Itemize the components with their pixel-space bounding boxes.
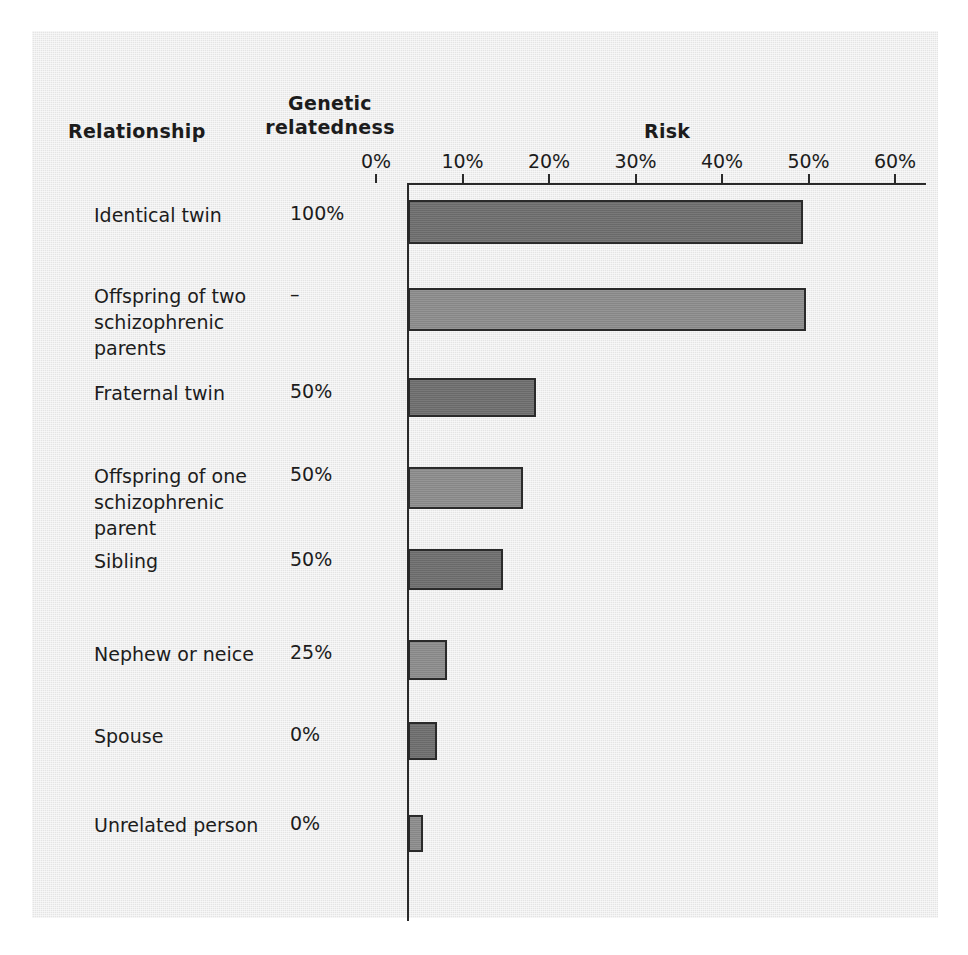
row-label-line1: Sibling xyxy=(94,548,284,574)
x-axis-tick-label: 60% xyxy=(874,150,916,172)
column-header-relationship: Relationship xyxy=(68,120,206,142)
x-axis-tick-label: 40% xyxy=(701,150,743,172)
row-label-line2: schizophrenic parents xyxy=(94,309,284,361)
bar-risk xyxy=(408,288,806,331)
row-label-relationship: Sibling xyxy=(94,548,284,574)
bar-risk xyxy=(408,815,423,852)
x-axis-tick xyxy=(808,174,810,183)
row-label-relationship: Nephew or neice xyxy=(94,641,284,667)
x-axis-tick xyxy=(548,174,550,183)
row-value-genetic-relatedness: 0% xyxy=(290,723,360,745)
row-label-line1: Fraternal twin xyxy=(94,380,284,406)
row-value-genetic-relatedness: 50% xyxy=(290,463,360,485)
row-label-line1: Spouse xyxy=(94,723,284,749)
x-axis-tick-label: 20% xyxy=(528,150,570,172)
bar-risk xyxy=(408,378,536,417)
x-axis-tick-label: 50% xyxy=(787,150,829,172)
x-axis-tick xyxy=(462,174,464,183)
column-header-genetic-relatedness: Genetic relatedness xyxy=(260,91,400,139)
column-header-genetic-line1: Genetic xyxy=(260,91,400,115)
x-axis-tick xyxy=(894,174,896,183)
bar-risk xyxy=(408,200,803,244)
row-label-line1: Offspring of one xyxy=(94,463,284,489)
row-label-line1: Unrelated person xyxy=(94,812,284,838)
row-label-relationship: Offspring of oneschizophrenic parent xyxy=(94,463,284,541)
figure-root: Relationship Genetic relatedness Risk 0%… xyxy=(0,0,968,955)
bar-risk xyxy=(408,467,523,509)
x-axis-tick xyxy=(721,174,723,183)
x-axis-tick-label: 0% xyxy=(361,150,391,172)
chart-panel: Relationship Genetic relatedness Risk 0%… xyxy=(32,31,938,918)
bar-risk xyxy=(408,640,447,680)
row-label-relationship: Spouse xyxy=(94,723,284,749)
row-label-line1: Identical twin xyxy=(94,202,284,228)
x-axis-tick xyxy=(375,174,377,183)
row-value-genetic-relatedness: 50% xyxy=(290,548,360,570)
row-label-relationship: Identical twin xyxy=(94,202,284,228)
x-axis-line xyxy=(407,183,926,185)
row-label-line1: Nephew or neice xyxy=(94,641,284,667)
bar-risk xyxy=(408,549,503,590)
row-value-genetic-relatedness: 25% xyxy=(290,641,360,663)
x-axis-tick-label: 30% xyxy=(614,150,656,172)
row-value-genetic-relatedness: 0% xyxy=(290,812,360,834)
row-value-genetic-relatedness: – xyxy=(290,283,360,305)
row-label-relationship: Unrelated person xyxy=(94,812,284,838)
row-value-genetic-relatedness: 100% xyxy=(290,202,360,224)
row-label-line2: schizophrenic parent xyxy=(94,489,284,541)
row-label-line1: Offspring of two xyxy=(94,283,284,309)
x-axis-tick-label: 10% xyxy=(441,150,483,172)
x-axis-tick xyxy=(635,174,637,183)
column-header-genetic-line2: relatedness xyxy=(260,115,400,139)
bar-risk xyxy=(408,722,437,760)
row-value-genetic-relatedness: 50% xyxy=(290,380,360,402)
row-label-relationship: Offspring of twoschizophrenic parents xyxy=(94,283,284,361)
row-label-relationship: Fraternal twin xyxy=(94,380,284,406)
column-header-risk: Risk xyxy=(644,120,690,142)
